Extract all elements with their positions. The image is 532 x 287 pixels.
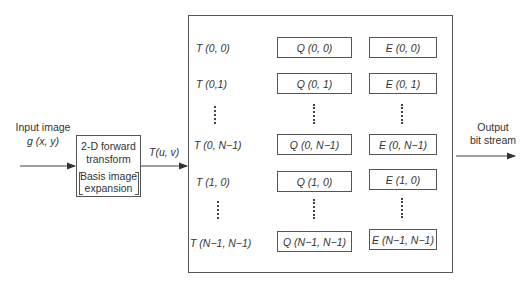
ellipsis-t-2 <box>217 201 221 219</box>
input-label-line1: Input image <box>14 121 72 133</box>
ellipsis-q-1 <box>313 104 317 124</box>
t-label-1: T (0,1) <box>196 78 227 90</box>
output-label: Output bit stream <box>462 121 524 146</box>
ellipsis-t-1 <box>214 106 218 124</box>
transform-line1: 2-D forward <box>77 140 140 152</box>
quantizer-box-3: Q (1, 0) <box>277 171 352 192</box>
t-label-0: T (0, 0) <box>196 42 230 54</box>
quantizer-box-1: Q (0, 1) <box>277 73 352 94</box>
transform-output-label: T(u, v) <box>149 146 179 158</box>
quantizer-box-0: Q (0, 0) <box>277 37 352 58</box>
ellipsis-q-2 <box>313 199 317 219</box>
t-label-4: T (N−1, N−1) <box>190 237 251 249</box>
output-label-line1: Output <box>462 121 524 133</box>
output-label-line2: bit stream <box>462 134 524 146</box>
encoder-box-0: E (0, 0) <box>369 37 437 58</box>
right-bracket <box>135 172 139 195</box>
transform-line3: Basis image <box>77 170 140 182</box>
t-label-2: T (0, N−1) <box>194 139 242 151</box>
input-label-line2: g (x, y) <box>14 135 72 147</box>
quantizer-box-2: Q (0, N−1) <box>277 134 352 155</box>
encoder-box-2: E (0, N−1) <box>369 134 437 155</box>
forward-transform-box: 2-D forward transform Basis image expans… <box>76 135 141 197</box>
input-label: Input image g (x, y) <box>14 121 72 147</box>
t-label-3: T (1, 0) <box>196 176 230 188</box>
encoder-box-4: E (N−1, N−1) <box>369 229 437 250</box>
left-bracket <box>79 172 83 195</box>
ellipsis-e-1 <box>401 104 405 124</box>
transform-line4: expansion <box>77 182 140 194</box>
encoder-box-3: E (1, 0) <box>369 169 437 190</box>
encoder-box-1: E (0, 1) <box>369 73 437 94</box>
quantizer-box-4: Q (N−1, N−1) <box>277 231 352 252</box>
transform-line2: transform <box>77 153 140 165</box>
ellipsis-e-2 <box>401 198 405 218</box>
